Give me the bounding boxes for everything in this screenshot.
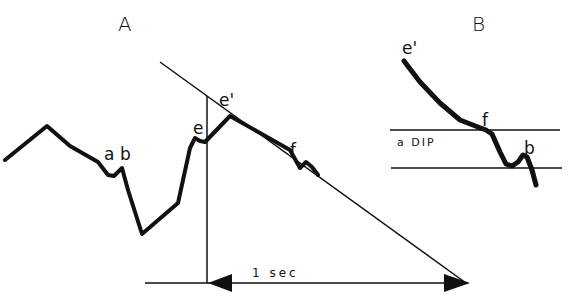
panel-label-a: A <box>118 14 132 34</box>
waveform-a <box>5 116 318 234</box>
dip-band-label: a DIP <box>397 137 436 148</box>
point-label-e: e <box>193 120 203 137</box>
tangent-line <box>160 62 466 283</box>
diagram-svg <box>0 0 571 300</box>
point-label-f: f <box>290 142 296 159</box>
diagram-canvas: A B a b e e' f 1 sec e' f b a DIP <box>0 0 571 300</box>
b-point-label-b: b <box>524 140 535 157</box>
point-label-e-prime: e' <box>219 92 234 109</box>
point-label-b: b <box>120 146 131 163</box>
panel-label-b: B <box>472 14 485 34</box>
waveform-b <box>404 61 536 185</box>
b-point-label-f: f <box>482 112 488 129</box>
time-scale-label: 1 sec <box>252 267 299 279</box>
point-label-a: a <box>104 146 114 163</box>
arrow-left-icon <box>208 274 232 292</box>
b-point-label-e-prime: e' <box>402 40 417 57</box>
